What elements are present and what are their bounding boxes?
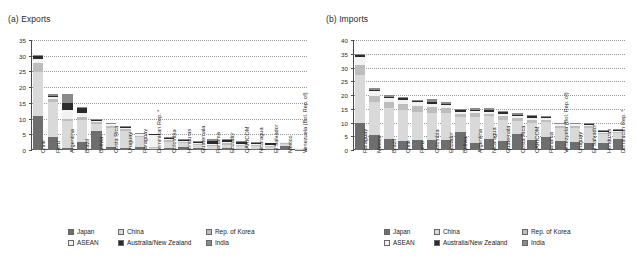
legend-label: Rep. of Korea: [531, 228, 570, 235]
bar-segment: [62, 110, 72, 119]
legend-item-australia-new-zealand[interactable]: Australia/New Zealand: [118, 239, 196, 246]
y-tick-label: 15: [19, 99, 26, 106]
y-tick: [29, 103, 32, 104]
legend-item-india[interactable]: India: [206, 239, 254, 246]
legend-item-asean[interactable]: ASEAN: [384, 239, 424, 246]
legend-item-rep-of-korea[interactable]: Rep. of Korea: [206, 228, 254, 235]
gridline: [32, 103, 307, 104]
x-tick-label: CARICOM: [244, 127, 250, 153]
legend-label: Rep. of Korea: [215, 228, 254, 235]
legend-label: Japan: [77, 228, 94, 235]
legend-label: China: [127, 228, 144, 235]
panel-title-exports: (a) Exports: [8, 14, 51, 24]
x-tick-label: Brazil: [391, 139, 397, 153]
y-tick-label: 35: [341, 50, 348, 57]
legend-swatch-icon: [68, 229, 74, 235]
legend-swatch-icon: [522, 229, 528, 235]
legend-item-australia-new-zealand[interactable]: Australia/New Zealand: [434, 239, 512, 246]
x-tick-label: Guatemala: [200, 126, 206, 153]
y-tick-label: 20: [341, 92, 348, 99]
legend-swatch-icon: [118, 240, 124, 246]
bar-segment: [62, 103, 72, 110]
panel-title-imports: (b) Imports: [326, 14, 368, 24]
bar-segment: [62, 94, 72, 103]
x-tick-label: Bolivia: [462, 137, 468, 153]
y-tick-label: 25: [19, 68, 26, 75]
y-tick: [29, 150, 32, 151]
gridline: [354, 95, 625, 96]
y-tick-label: 5: [345, 133, 348, 140]
x-tick-label: Peru: [55, 141, 61, 153]
x-tick-label: Mexico: [376, 135, 382, 153]
panel-exports: (a) Exports 05101520253035 ChilePeruArge…: [0, 0, 318, 264]
x-tick-label: Ecuador: [229, 132, 235, 153]
y-tick-label: 40: [341, 37, 348, 44]
x-tick-label: Bolivia: [98, 137, 104, 153]
bar-segment: [455, 117, 465, 132]
x-tick-label: Dominican Rep. *: [156, 109, 162, 153]
gridline: [32, 87, 307, 88]
gridline: [32, 71, 307, 72]
bar-segment: [355, 65, 365, 75]
legend-item-japan[interactable]: Japan: [384, 228, 424, 235]
x-tick-label: Mexico: [287, 135, 293, 153]
y-tick: [29, 134, 32, 135]
legend-label: ASEAN: [393, 239, 415, 246]
y-tick-label: 30: [19, 52, 26, 59]
x-tick-label: Argentina: [477, 129, 483, 153]
legend-item-china[interactable]: China: [434, 228, 512, 235]
x-tick-label: Chile: [405, 140, 411, 153]
y-tick-label: 10: [341, 119, 348, 126]
legend-swatch-icon: [118, 229, 124, 235]
bar-segment: [369, 102, 379, 134]
x-tick-label: El Salvador: [273, 124, 279, 153]
x-tick-label: Uruguay: [577, 132, 583, 153]
legend-item-india[interactable]: India: [522, 239, 570, 246]
gridline: [32, 119, 307, 120]
legend-item-japan[interactable]: Japan: [68, 228, 108, 235]
legend-swatch-icon: [206, 240, 212, 246]
y-tick: [29, 71, 32, 72]
legend-item-china[interactable]: China: [118, 228, 196, 235]
x-tick-label: Colombia: [434, 129, 440, 153]
legend-swatch-icon: [434, 229, 440, 235]
y-tick: [351, 68, 354, 69]
y-tick: [351, 95, 354, 96]
legend-item-asean[interactable]: ASEAN: [68, 239, 108, 246]
gridline: [354, 68, 625, 69]
bar-segment: [355, 57, 365, 65]
bar-segment: [369, 96, 379, 103]
y-tick: [29, 40, 32, 41]
gridline: [354, 81, 625, 82]
y-tick-label: 5: [23, 131, 26, 138]
legend-swatch-icon: [384, 229, 390, 235]
x-tick-label: Venezuela (Bol. Rep. of): [563, 92, 569, 153]
legend-label: India: [531, 239, 545, 246]
legend-swatch-icon: [522, 240, 528, 246]
x-tick-label: El Salvador: [591, 124, 597, 153]
bar-segment: [384, 108, 394, 138]
y-tick: [351, 54, 354, 55]
legend-item-rep-of-korea[interactable]: Rep. of Korea: [522, 228, 570, 235]
x-tick-label: Panama: [215, 132, 221, 153]
y-tick-label: 10: [19, 115, 26, 122]
y-tick-label: 0: [23, 147, 26, 154]
x-tick-label: CARICOM: [534, 127, 540, 153]
x-tick-label: Peru: [419, 141, 425, 153]
y-tick-label: 20: [19, 84, 26, 91]
legend-swatch-icon: [206, 229, 212, 235]
y-tick: [29, 56, 32, 57]
gridline: [354, 54, 625, 55]
x-tick-label: Colombia: [171, 129, 177, 153]
bar-segment: [91, 124, 101, 131]
legend-label: Japan: [393, 228, 410, 235]
x-tick-label: Guatemala: [505, 126, 511, 153]
y-tick-label: 25: [341, 78, 348, 85]
y-tick: [351, 123, 354, 124]
x-tick-label: Honduras: [606, 129, 612, 153]
legend-label: India: [215, 239, 229, 246]
gridline: [354, 40, 625, 41]
bar-segment: [33, 72, 43, 116]
x-tick-label: Uruguay: [127, 132, 133, 153]
x-tick-label: Nicaragua: [258, 128, 264, 154]
